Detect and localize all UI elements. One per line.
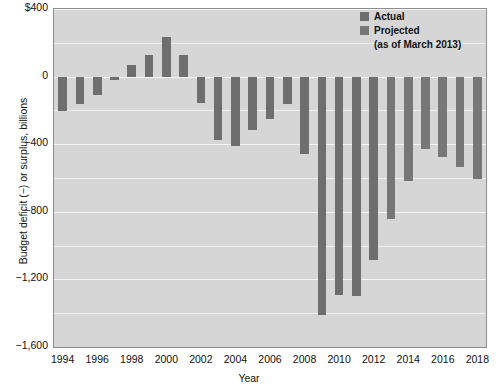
legend-label-actual: Actual (374, 10, 405, 23)
legend-item-projected: Projected (360, 24, 461, 37)
legend-label-projected-note: (as of March 2013) (374, 38, 461, 51)
chart-legend: Actual Projected (as of March 2013) (360, 10, 461, 51)
legend-swatch-projected-icon (360, 26, 369, 35)
y-tick-label: −1,600 (0, 339, 48, 351)
budget-deficit-chart: $4000−400−800−1,200−1,600 19941996199820… (0, 0, 498, 391)
y-axis-title: Budget deficit (−) or surplus, billions (17, 66, 29, 296)
legend-item-actual: Actual (360, 10, 461, 23)
legend-label-projected: Projected (374, 24, 420, 37)
x-axis-title: Year (0, 372, 498, 384)
x-tick-label: 2018 (457, 353, 497, 365)
y-axis-ticks: $4000−400−800−1,200−1,600 (0, 0, 498, 391)
legend-swatch-actual-icon (360, 12, 369, 21)
y-tick-label: $400 (0, 1, 48, 13)
